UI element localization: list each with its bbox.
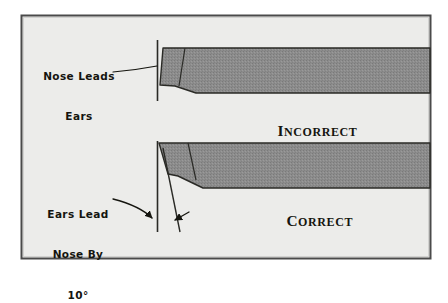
lower-annotation-angle-value: 10° bbox=[38, 289, 118, 302]
lower-ski-body bbox=[159, 143, 430, 188]
upper-ski-body bbox=[160, 48, 430, 93]
